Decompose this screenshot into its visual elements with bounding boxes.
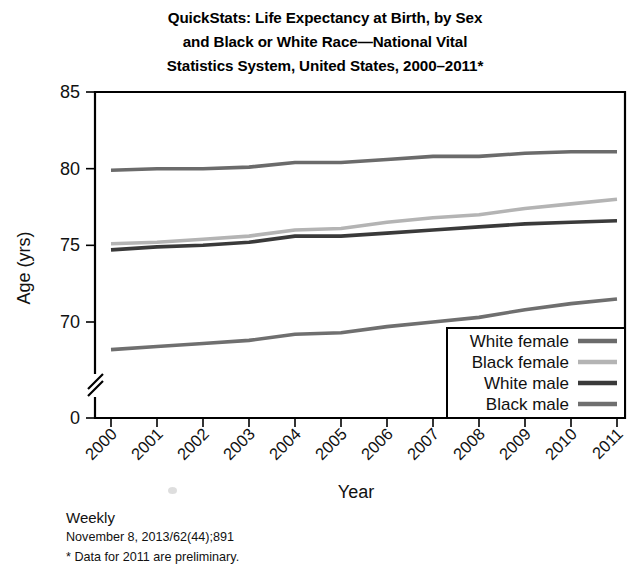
x-tick-label: 2005 xyxy=(311,424,350,463)
chart-canvas: 858075700Age (yrs)2000200120022003200420… xyxy=(14,82,626,502)
x-tick-label: 2010 xyxy=(541,424,580,463)
y-tick-label: 80 xyxy=(60,159,80,179)
x-tick-label: 2000 xyxy=(81,424,120,463)
footer-citation: November 8, 2013/62(44);891 xyxy=(66,528,626,547)
footer-weekly: Weekly xyxy=(66,508,626,528)
series-line-white-female xyxy=(111,152,617,170)
footer-block: Weekly November 8, 2013/62(44);891 * Dat… xyxy=(66,508,626,567)
x-tick-label: 2007 xyxy=(403,424,442,463)
x-tick-label: 2003 xyxy=(219,424,258,463)
legend-label-black-female: Black female xyxy=(472,353,569,372)
y-tick-label: 75 xyxy=(60,235,80,255)
footer-note: * Data for 2011 are preliminary. xyxy=(66,548,626,567)
x-tick-label: 2001 xyxy=(127,424,166,463)
x-tick-label: 2004 xyxy=(265,424,304,463)
x-tick-label: 2009 xyxy=(495,424,534,463)
legend-label-white-male: White male xyxy=(484,374,569,393)
x-axis-title: Year xyxy=(338,482,374,502)
y-axis-title: Age (yrs) xyxy=(14,231,34,304)
y-tick-label: 85 xyxy=(60,82,80,102)
x-tick-label: 2008 xyxy=(449,424,488,463)
x-tick-label: 2006 xyxy=(357,424,396,463)
scan-artifact xyxy=(168,487,177,494)
chart-figure: 858075700Age (yrs)2000200120022003200420… xyxy=(0,0,643,581)
x-tick-label: 2011 xyxy=(588,424,626,462)
legend-label-white-female: White female xyxy=(470,332,569,351)
y-tick-label: 70 xyxy=(60,312,80,332)
x-tick-label: 2002 xyxy=(173,424,212,463)
legend-label-black-male: Black male xyxy=(486,395,569,414)
y-tick-label: 0 xyxy=(70,408,80,428)
